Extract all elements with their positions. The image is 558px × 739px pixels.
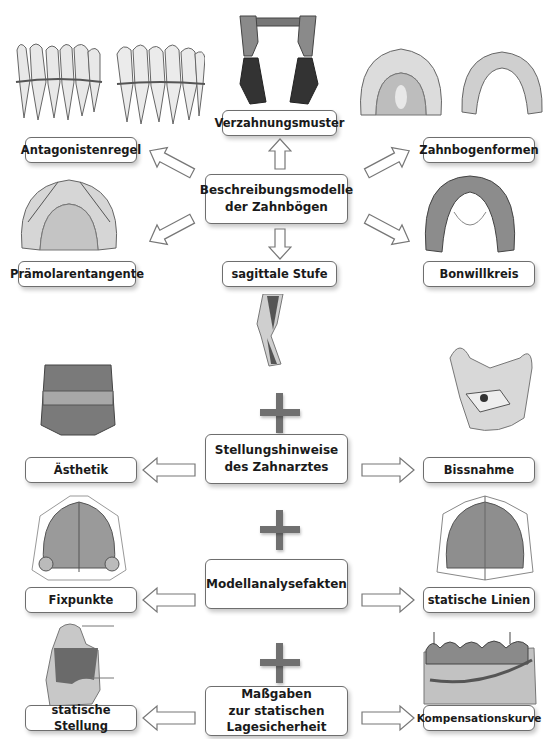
label-kompensationskurve: Kompensationskurve [423,705,535,731]
center-box-modellanalysefakten: Modellanalysefakten [205,559,348,609]
center-box-massgaben: Maßgaben zur statischen Lagesicherheit [205,686,348,736]
teeth-side-view-illustration-2 [115,40,205,126]
interdigitation-cross-section-illustration [232,12,324,107]
sagittal-step-illustration [253,294,289,368]
arrow-to-praemolarentangente [145,213,197,247]
lower-arch-illustration [458,48,546,120]
label-fixpunkte: Fixpunkte [25,587,137,613]
arrow-down-to-sagittale-stufe [268,228,292,260]
teeth-side-view-illustration-1 [12,40,104,122]
mandible-bite-registration-illustration [440,338,536,438]
plus-icon [260,510,300,550]
fixed-points-palate-illustration [30,494,128,582]
label-zahnbogenformen: Zahnbogenformen [423,137,535,163]
label-praemolarentangente: Prämolarentangente [18,261,136,287]
label-statische-stellung: statische Stellung [25,705,137,731]
arrow-to-antagonistenregel [145,145,197,179]
label-sagittale-stufe: sagittale Stufe [222,261,337,287]
label-verzahnungsmuster: Verzahnungsmuster [222,110,337,136]
arrow-to-statische-stellung [141,704,197,732]
arrow-to-zahnbogenformen [362,145,414,179]
bite-rims-illustration [35,355,121,437]
upper-arch-illustration [356,45,446,120]
arrow-to-fixpunkte [141,586,197,614]
arrow-up-to-verzahnungsmuster [268,138,292,170]
label-bissnahme: Bissnahme [423,457,535,483]
arrow-to-kompensationskurve [360,704,416,732]
arrow-to-bonwillkreis [362,213,414,247]
plus-icon [260,643,300,683]
plus-icon [260,393,300,433]
static-lines-palate-illustration [435,494,535,582]
label-statische-linien: statische Linien [423,587,535,613]
arrow-to-statische-linien [360,586,416,614]
compensation-curve-illustration [420,630,538,708]
label-antagonistenregel: Antagonistenregel [25,137,137,163]
premolar-tangent-arch-illustration [14,176,124,258]
static-position-cross-section-illustration [42,620,116,710]
label-bonwillkreis: Bonwillkreis [423,261,535,287]
bonwill-circle-arch-illustration [420,172,520,258]
arrow-to-bissnahme [360,456,416,484]
center-box-beschreibungsmodelle: Beschreibungsmodelle der Zahnbögen [205,174,348,224]
center-box-stellungshinweise: Stellungshinweise des Zahnarztes [205,434,348,484]
arrow-to-aesthetik [141,456,197,484]
label-aesthetik: Ästhetik [25,457,137,483]
